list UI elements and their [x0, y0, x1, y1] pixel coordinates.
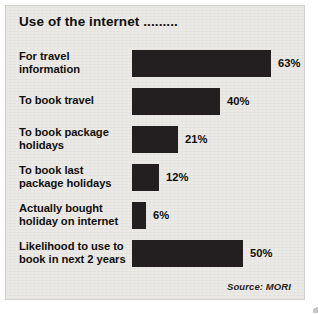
- bar: [132, 240, 243, 267]
- bar-row-label: Likelihood to use tobook in next 2 years: [19, 240, 131, 267]
- bar-row-label: To book packageholidays: [19, 126, 131, 153]
- bar-and-value: 63%: [132, 44, 300, 82]
- bar: [132, 202, 146, 229]
- bar-value-label: 40%: [227, 95, 249, 107]
- bar-chart-plot-area: For travelinformation63%To book travel40…: [6, 44, 305, 269]
- bar-row: Actually boughtholiday on internet6%: [6, 196, 305, 234]
- bar-and-value: 6%: [132, 196, 169, 234]
- bar-and-value: 40%: [132, 82, 249, 120]
- bar-row: Likelihood to use tobook in next 2 years…: [6, 234, 305, 272]
- bar-value-label: 63%: [278, 57, 300, 69]
- chart-panel: Use of the internet ......... For travel…: [5, 5, 305, 300]
- bar: [132, 126, 178, 153]
- bar-value-label: 6%: [153, 209, 169, 221]
- bar-row-label: To book travel: [19, 94, 131, 107]
- bar-row: For travelinformation63%: [6, 44, 305, 82]
- bar-value-label: 12%: [166, 171, 188, 183]
- bar: [132, 164, 159, 191]
- bar-row-label: For travelinformation: [19, 50, 131, 77]
- bar-row: To book travel40%: [6, 82, 305, 120]
- bar-and-value: 50%: [132, 234, 272, 272]
- chart-title: Use of the internet .........: [19, 14, 178, 29]
- bar-value-label: 21%: [185, 133, 207, 145]
- bar-and-value: 12%: [132, 158, 188, 196]
- bar-row: To book lastpackage holidays12%: [6, 158, 305, 196]
- bar-value-label: 50%: [250, 247, 272, 259]
- bar-row-label: Actually boughtholiday on internet: [19, 202, 131, 229]
- bar: [132, 50, 271, 77]
- bar-row: To book packageholidays21%: [6, 120, 305, 158]
- bar-and-value: 21%: [132, 120, 207, 158]
- source-note: Source: MORI: [227, 281, 291, 292]
- bar-row-label: To book lastpackage holidays: [19, 164, 131, 191]
- bar: [132, 88, 220, 115]
